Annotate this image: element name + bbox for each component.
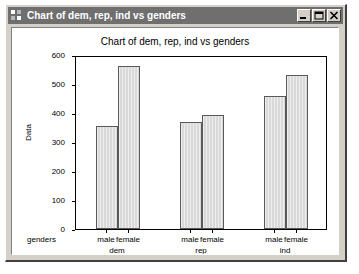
x-tick-mark <box>212 230 213 233</box>
plot-frame <box>75 56 327 230</box>
app-grid-icon <box>10 9 23 22</box>
window-titlebar[interactable]: Chart of dem, rep, ind vs genders <box>8 7 343 24</box>
bar-dem-female <box>118 66 140 229</box>
x-tick-label-dem-female: female <box>111 235 145 244</box>
x-tick-mark <box>128 230 129 233</box>
bar-rep-male <box>180 122 202 229</box>
x-tick-mark <box>274 230 275 233</box>
x-group-label-rep: rep <box>171 246 231 255</box>
y-tick-label: 500 <box>39 81 65 89</box>
y-tick-label: 200 <box>39 168 65 176</box>
x-tick-mark <box>296 230 297 233</box>
minimize-button[interactable] <box>297 9 311 22</box>
x-tick-mark <box>190 230 191 233</box>
chart-client-area: Chart of dem, rep, ind vs genders Data 0… <box>11 27 339 255</box>
maximize-button[interactable] <box>312 9 326 22</box>
x-tick-label-ind-female: female <box>279 235 313 244</box>
close-button[interactable] <box>327 9 341 22</box>
x-group-label-ind: ind <box>255 246 315 255</box>
plot-area: Data 0100200300400500600 malefemaledemma… <box>12 28 338 254</box>
y-axis-label: Data <box>24 113 33 153</box>
bar-ind-male <box>264 96 286 229</box>
y-tick-mark <box>72 230 75 231</box>
x-group-label-dem: dem <box>87 246 147 255</box>
y-tick-label: 600 <box>39 52 65 60</box>
y-tick-label: 400 <box>39 110 65 118</box>
bar-dem-male <box>96 126 118 229</box>
x-axis-label: genders <box>27 235 56 244</box>
x-tick-mark <box>106 230 107 233</box>
y-tick-label: 0 <box>39 226 65 234</box>
x-tick-label-rep-female: female <box>195 235 229 244</box>
bar-ind-female <box>286 75 308 229</box>
window-title: Chart of dem, rep, ind vs genders <box>27 10 296 21</box>
chart-window: Chart of dem, rep, ind vs genders Chart … <box>5 4 347 262</box>
y-tick-label: 100 <box>39 197 65 205</box>
y-tick-label: 300 <box>39 139 65 147</box>
bar-rep-female <box>202 115 224 229</box>
